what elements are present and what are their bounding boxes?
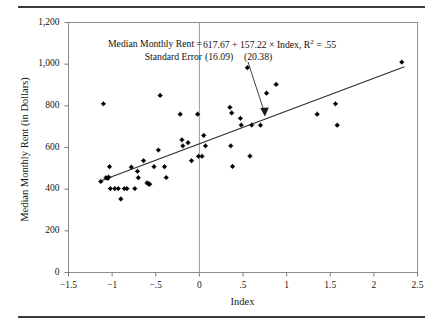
x-tick-label: .5: [223, 280, 263, 290]
annotation-equation-expression: 617.67 + 157.22 × Index, R: [203, 39, 310, 50]
annotation-equation-body: 617.67 + 157.22 × Index, R2 = .55: [203, 38, 336, 50]
x-tick-label: 0: [179, 280, 219, 290]
x-tick-label: −1.5: [49, 280, 89, 290]
annotation-se-intercept: (16.09): [205, 51, 233, 62]
x-tick-label: −1: [92, 280, 132, 290]
annotation-se-slope: (20.38): [244, 51, 272, 62]
x-tick-label: 1: [267, 280, 307, 290]
y-tick-label: 1,200: [20, 17, 60, 27]
annotation-arrow: [248, 62, 269, 117]
x-axis-title: Index: [68, 296, 417, 307]
x-tick-label: 2.5: [398, 280, 438, 290]
x-tick-label: 2: [354, 280, 394, 290]
x-tick-label: −.5: [136, 280, 176, 290]
data-points: [98, 59, 404, 201]
annotation-r-squared-value: = .55: [314, 39, 336, 50]
annotation-equation-label: Median Monthly Rent =: [65, 38, 202, 49]
figure-container: 02004006008001,0001,200−1.5−1−.50.511.52…: [0, 0, 441, 327]
y-tick-label: 0: [20, 267, 60, 277]
y-axis-title: Median Monthly Rent (in Dollars): [19, 50, 30, 250]
x-tick-label: 1.5: [310, 280, 350, 290]
annotation-standard-error-label: Standard Error: [65, 51, 202, 62]
